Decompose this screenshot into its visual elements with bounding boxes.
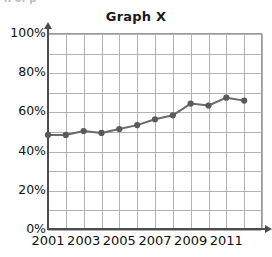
data-point-marker (223, 95, 229, 101)
data-point-marker (241, 98, 247, 104)
data-point-marker (116, 126, 122, 132)
data-point-marker (205, 102, 211, 108)
data-point-marker (63, 132, 69, 138)
data-point-marker (188, 100, 194, 106)
data-series-layer (0, 0, 272, 257)
series-line (48, 98, 244, 135)
data-point-marker (152, 116, 158, 122)
chart-figure: h of p Graph X 100%80%60%40%20%0% 200120… (0, 0, 272, 257)
data-point-marker (81, 128, 87, 134)
data-point-marker (45, 132, 51, 138)
data-point-marker (98, 130, 104, 136)
data-point-marker (170, 112, 176, 118)
data-point-marker (134, 122, 140, 128)
